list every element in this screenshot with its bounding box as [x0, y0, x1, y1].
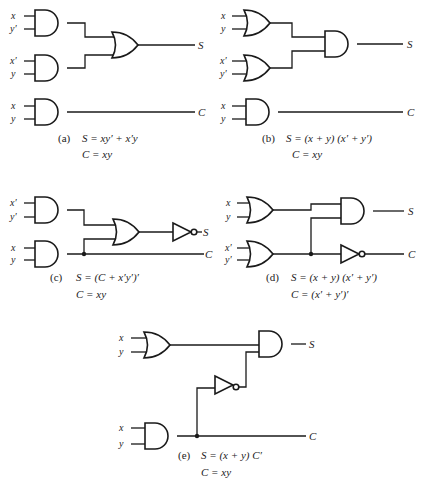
equation-s: S = (C + x′y′)′ — [76, 271, 140, 284]
or-gate — [113, 219, 139, 245]
junction-dot — [309, 252, 313, 256]
and-gate — [259, 331, 282, 357]
not-gate — [215, 376, 233, 394]
input-label: x — [118, 332, 124, 343]
input-label: x′ — [219, 55, 227, 66]
output-label-s: S — [407, 38, 413, 50]
input-label: x — [10, 10, 16, 21]
not-gate — [173, 223, 191, 241]
or-gate — [144, 332, 170, 358]
not-gate — [341, 245, 359, 263]
panel-c: x′ y′ x y S C (c) S = (C + x′y′)′ C = xy — [9, 197, 213, 300]
output-label-c: C — [309, 430, 317, 442]
input-label: x′ — [224, 242, 232, 253]
or-gate — [112, 32, 138, 58]
input-label: y — [118, 438, 124, 449]
and-gate — [35, 197, 58, 223]
input-label: x — [220, 10, 226, 21]
input-label: y — [10, 68, 16, 79]
panel-tag: (e) — [178, 449, 191, 462]
input-label: y′ — [9, 23, 17, 34]
input-label: x′ — [9, 197, 17, 208]
output-label-s: S — [309, 338, 315, 350]
panel-e: x y S x y C (e) S = (x + y) C′ C = xy — [118, 331, 317, 478]
input-label: x′ — [9, 55, 17, 66]
output-label-c: C — [205, 248, 213, 260]
input-label: y — [225, 211, 231, 222]
panel-tag: (b) — [262, 132, 275, 145]
inverter-bubble — [233, 384, 239, 390]
input-label: y′ — [219, 68, 227, 79]
equation-c: C = xy — [76, 288, 106, 300]
or-gate — [244, 10, 270, 36]
input-label: x — [10, 242, 16, 253]
input-label: y — [220, 113, 226, 124]
or-gate — [247, 197, 273, 223]
panel-tag: (a) — [58, 132, 71, 145]
panel-tag: (d) — [266, 271, 279, 284]
output-label-c: C — [407, 106, 415, 118]
equation-s: S = (x + y) C′ — [201, 449, 263, 462]
equation-c: C = xy — [201, 466, 231, 478]
and-gate — [341, 198, 364, 224]
input-label: y — [10, 254, 16, 265]
input-label: x — [10, 100, 16, 111]
equation-c: C = (x′ + y′)′ — [291, 288, 349, 301]
equation-s: S = xy′ + x′y — [82, 132, 138, 144]
half-adder-implementations-figure: x y′ x′ y S x y C (a) S = xy′ + x′y C = … — [0, 0, 424, 489]
output-label-s: S — [198, 39, 204, 51]
input-label: x — [118, 422, 124, 433]
inverter-bubble — [359, 251, 365, 257]
panel-tag: (c) — [50, 271, 63, 284]
and-gate — [145, 423, 168, 449]
equation-s: S = (x + y) (x′ + y′) — [286, 132, 372, 145]
equation-c: C = xy — [292, 148, 322, 160]
and-gate — [325, 31, 348, 57]
output-label-s: S — [203, 226, 209, 238]
or-gate — [244, 55, 270, 81]
and-gate — [35, 241, 58, 267]
input-label: y — [220, 23, 226, 34]
output-label-c: C — [408, 248, 416, 260]
input-label: y — [118, 346, 124, 357]
input-label: y — [10, 113, 16, 124]
panel-a: x y′ x′ y S x y C (a) S = xy′ + x′y C = … — [9, 10, 206, 160]
equation-c: C = xy — [82, 148, 112, 160]
inverter-bubble — [191, 229, 197, 235]
and-gate — [35, 55, 58, 81]
and-gate — [35, 10, 58, 36]
equation-s: S = (x + y) (x′ + y′) — [291, 271, 377, 284]
junction-dot — [82, 252, 86, 256]
input-label: y′ — [9, 211, 17, 222]
input-label: x — [225, 197, 231, 208]
and-gate — [35, 99, 58, 125]
panel-b: x y x′ y′ S x y C (b) S = (x + y) (x′ + … — [219, 10, 415, 160]
output-label-s: S — [408, 205, 414, 217]
output-label-c: C — [198, 106, 206, 118]
input-label: x — [220, 100, 226, 111]
junction-dot — [195, 434, 199, 438]
or-gate — [247, 241, 273, 267]
panel-d: x y x′ y′ S C (d) S = (x + y) (x′ + y′) … — [224, 197, 416, 301]
input-label: y′ — [224, 254, 232, 265]
and-gate — [246, 99, 269, 125]
